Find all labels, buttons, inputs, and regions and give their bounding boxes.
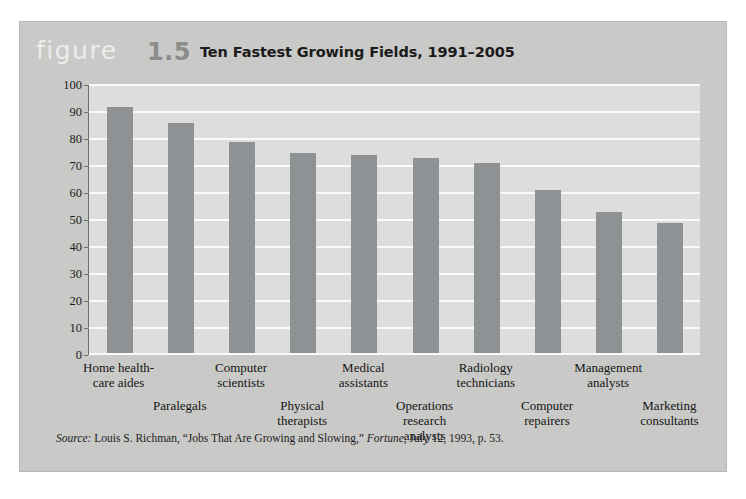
source-prefix: Source: bbox=[56, 432, 91, 444]
y-tick-label: 60 bbox=[48, 186, 82, 201]
y-tick-mark bbox=[84, 274, 88, 275]
page-title: Ten Fastest Growing Fields, 1991–2005 bbox=[200, 42, 515, 62]
x-label-line: Physical bbox=[242, 398, 362, 413]
y-tick-mark bbox=[84, 166, 88, 167]
y-tick-mark bbox=[84, 85, 88, 86]
x-label-line: Computer bbox=[487, 398, 607, 413]
x-label-line: Home health- bbox=[59, 360, 179, 375]
y-tick-label: 100 bbox=[48, 78, 82, 93]
y-tick-label: 20 bbox=[48, 294, 82, 309]
x-label-line: research bbox=[365, 413, 485, 428]
figure-word-label: figure bbox=[36, 36, 118, 66]
x-axis-label: Paralegals bbox=[120, 398, 240, 413]
y-tick-mark bbox=[84, 220, 88, 221]
x-label-line: Management bbox=[548, 360, 668, 375]
x-label-line: care aides bbox=[59, 375, 179, 390]
x-axis-baseline bbox=[89, 353, 700, 355]
bar bbox=[596, 212, 622, 355]
x-axis-label: Computerrepairers bbox=[487, 398, 607, 428]
source-publication: Fortune bbox=[367, 432, 404, 444]
x-axis-label: Computerscientists bbox=[181, 360, 301, 390]
bar bbox=[168, 123, 194, 355]
source-note: Source: Louis S. Richman, “Jobs That Are… bbox=[56, 432, 504, 444]
figure-number-label: 1.5 bbox=[147, 37, 191, 67]
x-label-line: Paralegals bbox=[120, 398, 240, 413]
x-label-line: scientists bbox=[181, 375, 301, 390]
x-axis-label: Managementanalysts bbox=[548, 360, 668, 390]
y-tick-mark bbox=[84, 193, 88, 194]
y-tick-label: 30 bbox=[48, 267, 82, 282]
bar bbox=[657, 223, 683, 355]
x-label-line: assistants bbox=[303, 375, 423, 390]
gridline bbox=[89, 84, 700, 86]
x-axis-label: Radiologytechnicians bbox=[426, 360, 546, 390]
x-axis-label: Medicalassistants bbox=[303, 360, 423, 390]
bar bbox=[474, 163, 500, 355]
x-label-line: technicians bbox=[426, 375, 546, 390]
y-tick-label: 90 bbox=[48, 105, 82, 120]
x-axis-label: Marketingconsultants bbox=[609, 398, 729, 428]
bar bbox=[229, 142, 255, 355]
x-axis-label: Physicaltherapists bbox=[242, 398, 362, 428]
plot-region bbox=[88, 85, 700, 355]
y-tick-label: 80 bbox=[48, 132, 82, 147]
x-label-line: therapists bbox=[242, 413, 362, 428]
x-label-line: Computer bbox=[181, 360, 301, 375]
x-label-line: Radiology bbox=[426, 360, 546, 375]
source-text-first: Louis S. Richman, “Jobs That Are Growing… bbox=[91, 432, 366, 444]
y-tick-label: 10 bbox=[48, 321, 82, 336]
x-label-line: Operations bbox=[365, 398, 485, 413]
y-tick-mark bbox=[84, 301, 88, 302]
y-tick-label: 40 bbox=[48, 240, 82, 255]
x-label-line: consultants bbox=[609, 413, 729, 428]
bar bbox=[351, 155, 377, 355]
x-label-line: Marketing bbox=[609, 398, 729, 413]
bar bbox=[413, 158, 439, 355]
bar bbox=[107, 107, 133, 355]
x-axis-labels: Home health-care aidesParalegalsComputer… bbox=[88, 356, 700, 461]
y-tick-label: 50 bbox=[48, 213, 82, 228]
bar bbox=[535, 190, 561, 355]
y-tick-mark bbox=[84, 328, 88, 329]
x-axis-label: Home health-care aides bbox=[59, 360, 179, 390]
source-text-second: , July 12, 1993, p. 53. bbox=[404, 432, 504, 444]
x-label-line: repairers bbox=[487, 413, 607, 428]
figure-card: figure 1.5 Ten Fastest Growing Fields, 1… bbox=[20, 22, 726, 471]
x-label-line: analysts bbox=[548, 375, 668, 390]
y-tick-label: 70 bbox=[48, 159, 82, 174]
gridline bbox=[89, 111, 700, 113]
figure-header: figure 1.5 Ten Fastest Growing Fields, 1… bbox=[20, 36, 726, 70]
y-tick-mark bbox=[84, 112, 88, 113]
bar bbox=[290, 153, 316, 356]
y-tick-mark bbox=[84, 139, 88, 140]
chart-area: Percent growth in number of jobs 0102030… bbox=[88, 85, 700, 355]
y-tick-mark bbox=[84, 247, 88, 248]
x-label-line: Medical bbox=[303, 360, 423, 375]
